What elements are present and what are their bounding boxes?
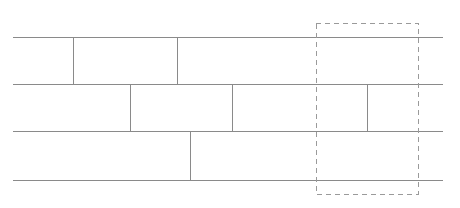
diagram-svg — [0, 0, 460, 208]
course-lines-group — [13, 37, 443, 180]
diagram-canvas — [0, 0, 460, 208]
joint-lines-group — [73, 37, 367, 180]
